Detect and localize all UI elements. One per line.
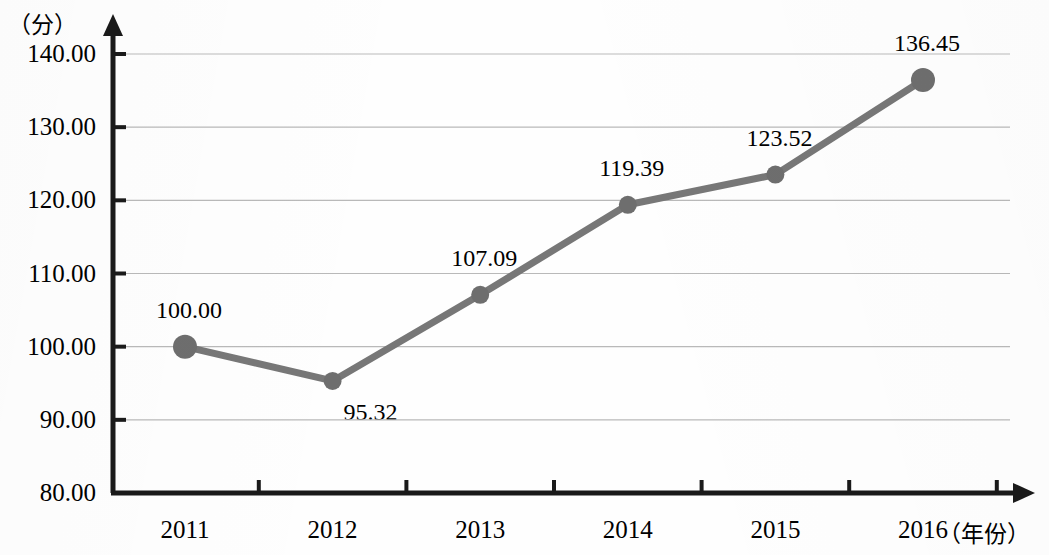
series-line [185,80,923,381]
data-point-marker [619,196,637,214]
data-point-marker [911,68,935,92]
data-point-marker [766,166,784,184]
data-point-marker [471,286,489,304]
axis-lines [103,14,1035,503]
line-chart-figure: （分） （年份） 140.00130.00120.00110.00100.009… [0,0,1049,555]
series-markers [173,68,935,390]
plot-area [0,0,1049,555]
data-point-marker [173,335,197,359]
data-point-marker [324,372,342,390]
